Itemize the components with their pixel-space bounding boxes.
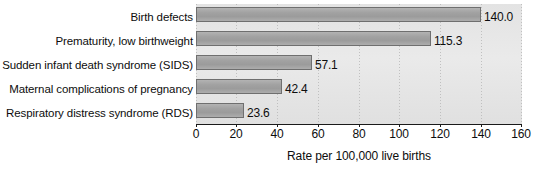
x-axis-title: Rate per 100,000 live births bbox=[196, 150, 522, 163]
gridline bbox=[481, 4, 482, 124]
x-tick-label: 80 bbox=[339, 128, 379, 141]
x-tick-label: 40 bbox=[257, 128, 297, 141]
bar bbox=[196, 103, 244, 118]
gridline bbox=[359, 4, 360, 124]
x-tick-label: 100 bbox=[379, 128, 419, 141]
gridline bbox=[440, 4, 441, 124]
bar bbox=[196, 31, 431, 46]
bar-chart: Birth defects Prematurity, low birthweig… bbox=[0, 0, 541, 173]
plot-area bbox=[196, 4, 522, 124]
bar bbox=[196, 55, 312, 70]
category-label: Prematurity, low birthweight bbox=[0, 35, 193, 47]
x-tick-label: 20 bbox=[216, 128, 256, 141]
bar bbox=[196, 79, 282, 94]
x-tick-label: 60 bbox=[298, 128, 338, 141]
gridline bbox=[521, 4, 522, 124]
bar-value-label: 42.4 bbox=[285, 83, 308, 95]
bar-value-label: 115.3 bbox=[434, 35, 462, 47]
gridline bbox=[399, 4, 400, 124]
category-label: Birth defects bbox=[0, 11, 193, 23]
x-tick-label: 0 bbox=[176, 128, 216, 141]
bar-value-label: 23.6 bbox=[247, 107, 270, 119]
category-label: Maternal complications of pregnancy bbox=[0, 83, 193, 95]
x-tick-label: 120 bbox=[420, 128, 460, 141]
category-axis: Birth defects Prematurity, low birthweig… bbox=[0, 0, 193, 125]
bar-value-label: 57.1 bbox=[315, 59, 338, 71]
bar-value-label: 140.0 bbox=[484, 11, 513, 23]
category-label: Respiratory distress syndrome (RDS) bbox=[0, 107, 193, 119]
x-tick-label: 160 bbox=[501, 128, 541, 141]
bar bbox=[196, 7, 481, 22]
x-tick-label: 140 bbox=[461, 128, 501, 141]
category-label: Sudden infant death syndrome (SIDS) bbox=[0, 59, 193, 71]
